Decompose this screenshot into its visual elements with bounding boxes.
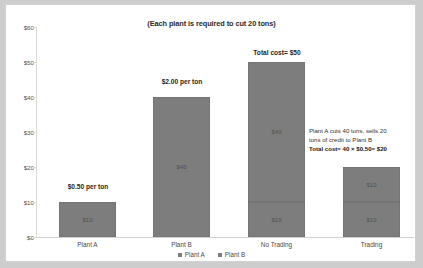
- x-category-no-trading: No Trading: [243, 241, 310, 248]
- note-line-1: Plant A cuts 40 tons, sells 20: [309, 127, 417, 136]
- x-category-plant-a: Plant A: [59, 241, 116, 248]
- legend-label: Plant A: [185, 251, 205, 258]
- chart-card: (Each plant is required to cut 20 tons) …: [5, 4, 416, 262]
- bar-segment-no-trading-plant-b[interactable]: $40: [248, 62, 305, 202]
- legend-item-plant-a[interactable]: Plant A: [178, 251, 205, 258]
- y-tick-10: $10: [12, 199, 34, 206]
- bar-annotation-no-trading: Total cost= $50: [237, 49, 317, 56]
- bar-segment-plant-b[interactable]: $40: [153, 97, 210, 237]
- trading-note-annotation: Plant A cuts 40 tons, sells 20 tons of c…: [309, 127, 417, 153]
- y-tick-30: $30: [12, 129, 34, 136]
- y-tick-40: $40: [12, 94, 34, 101]
- y-tickmark-0: [33, 237, 36, 238]
- note-line-2: tons of credit to Plant B: [309, 136, 417, 145]
- bar-segment-no-trading-plant-a[interactable]: $10: [248, 202, 305, 237]
- bar-plant-a[interactable]: $10: [59, 202, 116, 237]
- x-category-trading: Trading: [343, 241, 400, 248]
- bar-value-label: $10: [343, 217, 400, 223]
- x-axis-line: [36, 237, 414, 238]
- legend-label: Plant B: [225, 251, 245, 258]
- chart-legend: Plant A Plant B: [6, 251, 417, 258]
- y-tick-60: $60: [12, 24, 34, 31]
- legend-swatch-icon: [218, 253, 222, 257]
- bar-segment-trading-plant-a[interactable]: $10: [343, 202, 400, 237]
- legend-item-plant-b[interactable]: Plant B: [218, 251, 245, 258]
- x-category-plant-b: Plant B: [153, 241, 210, 248]
- bar-value-label: $10: [59, 217, 116, 223]
- bar-no-trading[interactable]: $40 $10: [248, 62, 305, 237]
- y-tickmark-40: [33, 97, 36, 98]
- y-tickmark-30: [33, 132, 36, 133]
- y-tickmark-50: [33, 62, 36, 63]
- y-tickmark-60: [33, 27, 36, 28]
- bar-value-label: $10: [248, 217, 305, 223]
- bar-segment-plant-a-lower[interactable]: $10: [59, 202, 116, 237]
- bar-value-label: $40: [153, 164, 210, 170]
- y-tick-50: $50: [12, 59, 34, 66]
- y-tickmark-20: [33, 167, 36, 168]
- bar-annotation-plant-a: $0.50 per ton: [49, 183, 127, 190]
- bar-annotation-plant-b: $2.00 per ton: [143, 78, 221, 85]
- bar-value-label: $40: [248, 129, 305, 135]
- note-line-3: Total cost= 40 × $0.50= $20: [309, 145, 417, 154]
- bar-plant-b[interactable]: $40: [153, 97, 210, 237]
- bar-segment-trading-plant-b[interactable]: $10: [343, 167, 400, 202]
- screenshot-frame: (Each plant is required to cut 20 tons) …: [0, 0, 423, 268]
- y-axis-line: [36, 27, 37, 238]
- y-tick-0: $0: [12, 234, 34, 241]
- bar-value-label: $10: [343, 182, 400, 188]
- y-tickmark-10: [33, 202, 36, 203]
- bar-trading[interactable]: $10 $10: [343, 167, 400, 237]
- legend-swatch-icon: [178, 253, 182, 257]
- chart-title: (Each plant is required to cut 20 tons): [6, 19, 417, 28]
- y-tick-20: $20: [12, 164, 34, 171]
